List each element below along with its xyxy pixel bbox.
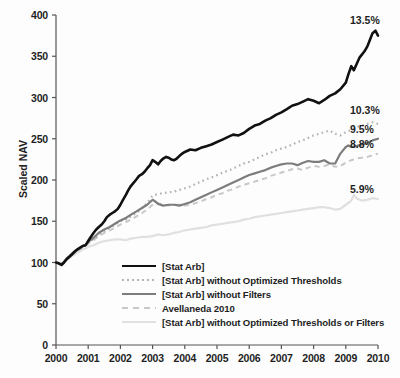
series-end-label: 8.8% xyxy=(350,138,374,150)
y-tick-label: 300 xyxy=(14,92,48,104)
legend-line-icon xyxy=(122,288,156,300)
chart-legend: [Stat Arb][Stat Arb] without Optimized T… xyxy=(122,259,384,329)
x-tick-label: 2001 xyxy=(70,352,106,364)
x-tick-label: 2006 xyxy=(231,352,267,364)
y-tick-label: 150 xyxy=(14,215,48,227)
y-tick-label: 350 xyxy=(14,50,48,62)
legend-item: [Stat Arb] xyxy=(122,259,384,273)
legend-item-label: Avellaneda 2010 xyxy=(162,303,235,314)
legend-item-label: [Stat Arb] without Optimized Thresholds … xyxy=(162,317,384,328)
series-end-label: 9.5% xyxy=(350,123,374,135)
y-tick-label: 250 xyxy=(14,133,48,145)
x-tick-label: 2008 xyxy=(296,352,332,364)
y-tick-label: 100 xyxy=(14,257,48,269)
x-tick-label: 2004 xyxy=(167,352,203,364)
x-tick-label: 2009 xyxy=(328,352,364,364)
x-tick-label: 2002 xyxy=(102,352,138,364)
chart-container: Scaled NAV 050100150200250300350400 2000… xyxy=(0,0,400,378)
series-group xyxy=(56,31,378,265)
series-line xyxy=(56,139,378,264)
legend-item-label: [Stat Arb] without Filters xyxy=(162,289,271,300)
x-tick-label: 2000 xyxy=(38,352,74,364)
legend-item: Avellaneda 2010 xyxy=(122,301,384,315)
x-tick-label: 2005 xyxy=(199,352,235,364)
legend-item-label: [Stat Arb] without Optimized Thresholds xyxy=(162,275,342,286)
series-end-label: 13.5% xyxy=(350,14,380,26)
y-tick-label: 50 xyxy=(14,298,48,310)
legend-line-icon xyxy=(122,260,156,272)
x-tick-label: 2003 xyxy=(135,352,171,364)
legend-item: [Stat Arb] without Optimized Thresholds xyxy=(122,273,384,287)
legend-item: [Stat Arb] without Optimized Thresholds … xyxy=(122,315,384,329)
legend-line-icon xyxy=(122,316,156,328)
series-end-label: 10.3% xyxy=(350,104,380,116)
y-tick-label: 200 xyxy=(14,174,48,186)
y-tick-label: 400 xyxy=(14,9,48,21)
legend-item-label: [Stat Arb] xyxy=(162,261,204,272)
legend-line-icon xyxy=(122,302,156,314)
series-line xyxy=(56,122,378,264)
legend-item: [Stat Arb] without Filters xyxy=(122,287,384,301)
x-tick-label: 2007 xyxy=(263,352,299,364)
series-end-label: 5.9% xyxy=(350,183,374,195)
y-tick-label: 0 xyxy=(14,339,48,351)
legend-line-icon xyxy=(122,274,156,286)
x-tick-label: 2010 xyxy=(360,352,396,364)
